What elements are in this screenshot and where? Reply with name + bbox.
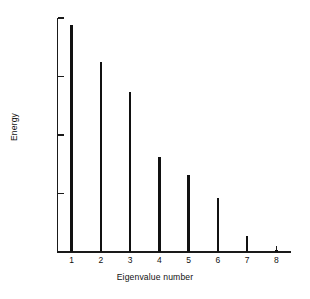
y-axis-title: Energy [9, 97, 19, 157]
x-axis-tick-label: 3 [122, 256, 138, 265]
bar [100, 62, 103, 252]
chart-figure: 110−110−210−310−4 12345678 Energy Eigenv… [0, 0, 310, 299]
bar [246, 236, 249, 252]
x-axis-tick-label: 2 [93, 256, 109, 265]
y-axis-tick [58, 76, 64, 77]
y-axis-tick [58, 134, 64, 135]
bar [129, 92, 132, 252]
x-axis-title: Eigenvalue number [0, 272, 310, 282]
x-axis-tick-label: 1 [64, 256, 80, 265]
bar [217, 198, 220, 252]
y-axis-tick [58, 251, 64, 252]
bar [70, 25, 73, 252]
x-axis-line [57, 251, 291, 252]
bar [187, 175, 190, 252]
y-axis-tick [58, 17, 64, 18]
bar [275, 250, 278, 252]
x-axis-tick-label: 4 [151, 256, 167, 265]
y-axis-tick [58, 193, 64, 194]
x-axis-tick-label: 7 [239, 256, 255, 265]
x-axis-tick-label: 8 [268, 256, 284, 265]
bar [158, 157, 161, 252]
x-axis-tick-label: 6 [210, 256, 226, 265]
x-axis-tick-label: 5 [181, 256, 197, 265]
